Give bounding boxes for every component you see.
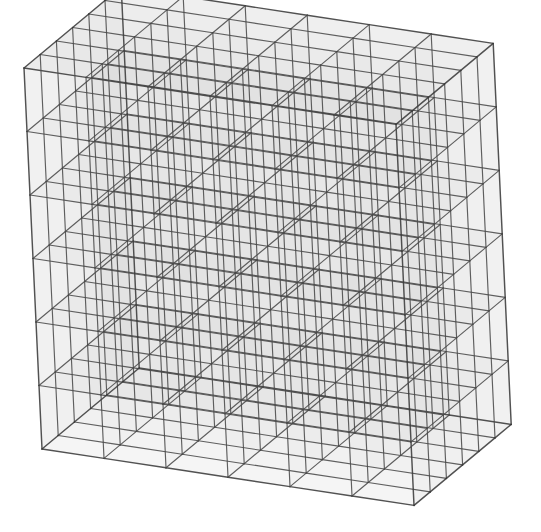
voxel-lattice-canvas [0, 0, 541, 532]
voxel-lattice-figure [0, 0, 541, 532]
